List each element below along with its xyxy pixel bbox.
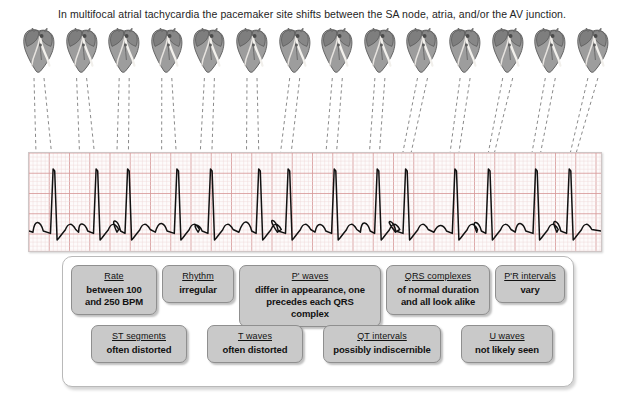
- finding-title: U waves: [469, 331, 545, 341]
- finding-value: often distorted: [99, 344, 179, 356]
- finding-value: possibly indiscernible: [331, 344, 433, 356]
- heart-icon: [574, 28, 612, 76]
- finding-value: of normal durationand all look alike: [394, 284, 482, 308]
- finding-u-waves: U wavesnot likely seen: [461, 325, 553, 363]
- finding-title: T waves: [215, 331, 295, 341]
- finding-value: between 100and 250 BPM: [79, 284, 149, 308]
- finding-value: vary: [503, 284, 557, 296]
- finding-qrs-complexes: QRS complexesof normal durationand all l…: [386, 265, 490, 315]
- finding-title: Rate: [79, 271, 149, 281]
- heart-icon: [233, 28, 271, 76]
- finding-rate: Ratebetween 100and 250 BPM: [71, 265, 157, 315]
- heart-icon: [403, 28, 441, 76]
- findings-row-primary: Ratebetween 100and 250 BPMRhythmirregula…: [71, 265, 565, 327]
- finding-p-r-intervals: P'R intervalsvary: [495, 265, 565, 303]
- heart-icon: [361, 28, 399, 76]
- finding-st-segments: ST segmentsoften distorted: [91, 325, 187, 363]
- finding-value: not likely seen: [469, 344, 545, 356]
- heart-icon: [531, 28, 569, 76]
- finding-value: differ in appearance, oneprecedes each Q…: [247, 284, 373, 320]
- heart-icon: [63, 28, 101, 76]
- page-title: In multifocal atrial tachycardia the pac…: [0, 8, 624, 20]
- heart-icon: [190, 28, 228, 76]
- finding-title: QT intervals: [331, 331, 433, 341]
- heart-diagram-row: [20, 28, 612, 80]
- finding-title: ST segments: [99, 331, 179, 341]
- heart-icon: [276, 28, 314, 76]
- findings-row-secondary: ST segmentsoften distortedT wavesoften d…: [91, 325, 553, 363]
- finding-rhythm: Rhythmirregular: [162, 265, 234, 303]
- finding-title: Rhythm: [170, 271, 226, 281]
- heart-icon: [148, 28, 186, 76]
- finding-value: often distorted: [215, 344, 295, 356]
- heart-icon: [20, 28, 58, 76]
- heart-icon: [446, 28, 484, 76]
- heart-icon: [105, 28, 143, 76]
- slide-root: In multifocal atrial tachycardia the pac…: [0, 0, 624, 409]
- finding-p-waves: P' wavesdiffer in appearance, oneprecede…: [239, 265, 381, 327]
- finding-title: P' waves: [247, 271, 373, 281]
- findings-panel: Ratebetween 100and 250 BPMRhythmirregula…: [62, 256, 574, 387]
- finding-t-waves: T wavesoften distorted: [207, 325, 303, 363]
- finding-value: irregular: [170, 284, 226, 296]
- ecg-waveform-trace: [29, 153, 601, 251]
- heart-icon: [318, 28, 356, 76]
- heart-icon: [489, 28, 527, 76]
- finding-title: QRS complexes: [394, 271, 482, 281]
- ecg-rhythm-strip: [28, 152, 602, 252]
- finding-title: P'R intervals: [503, 271, 557, 281]
- finding-qt-intervals: QT intervalspossibly indiscernible: [323, 325, 441, 363]
